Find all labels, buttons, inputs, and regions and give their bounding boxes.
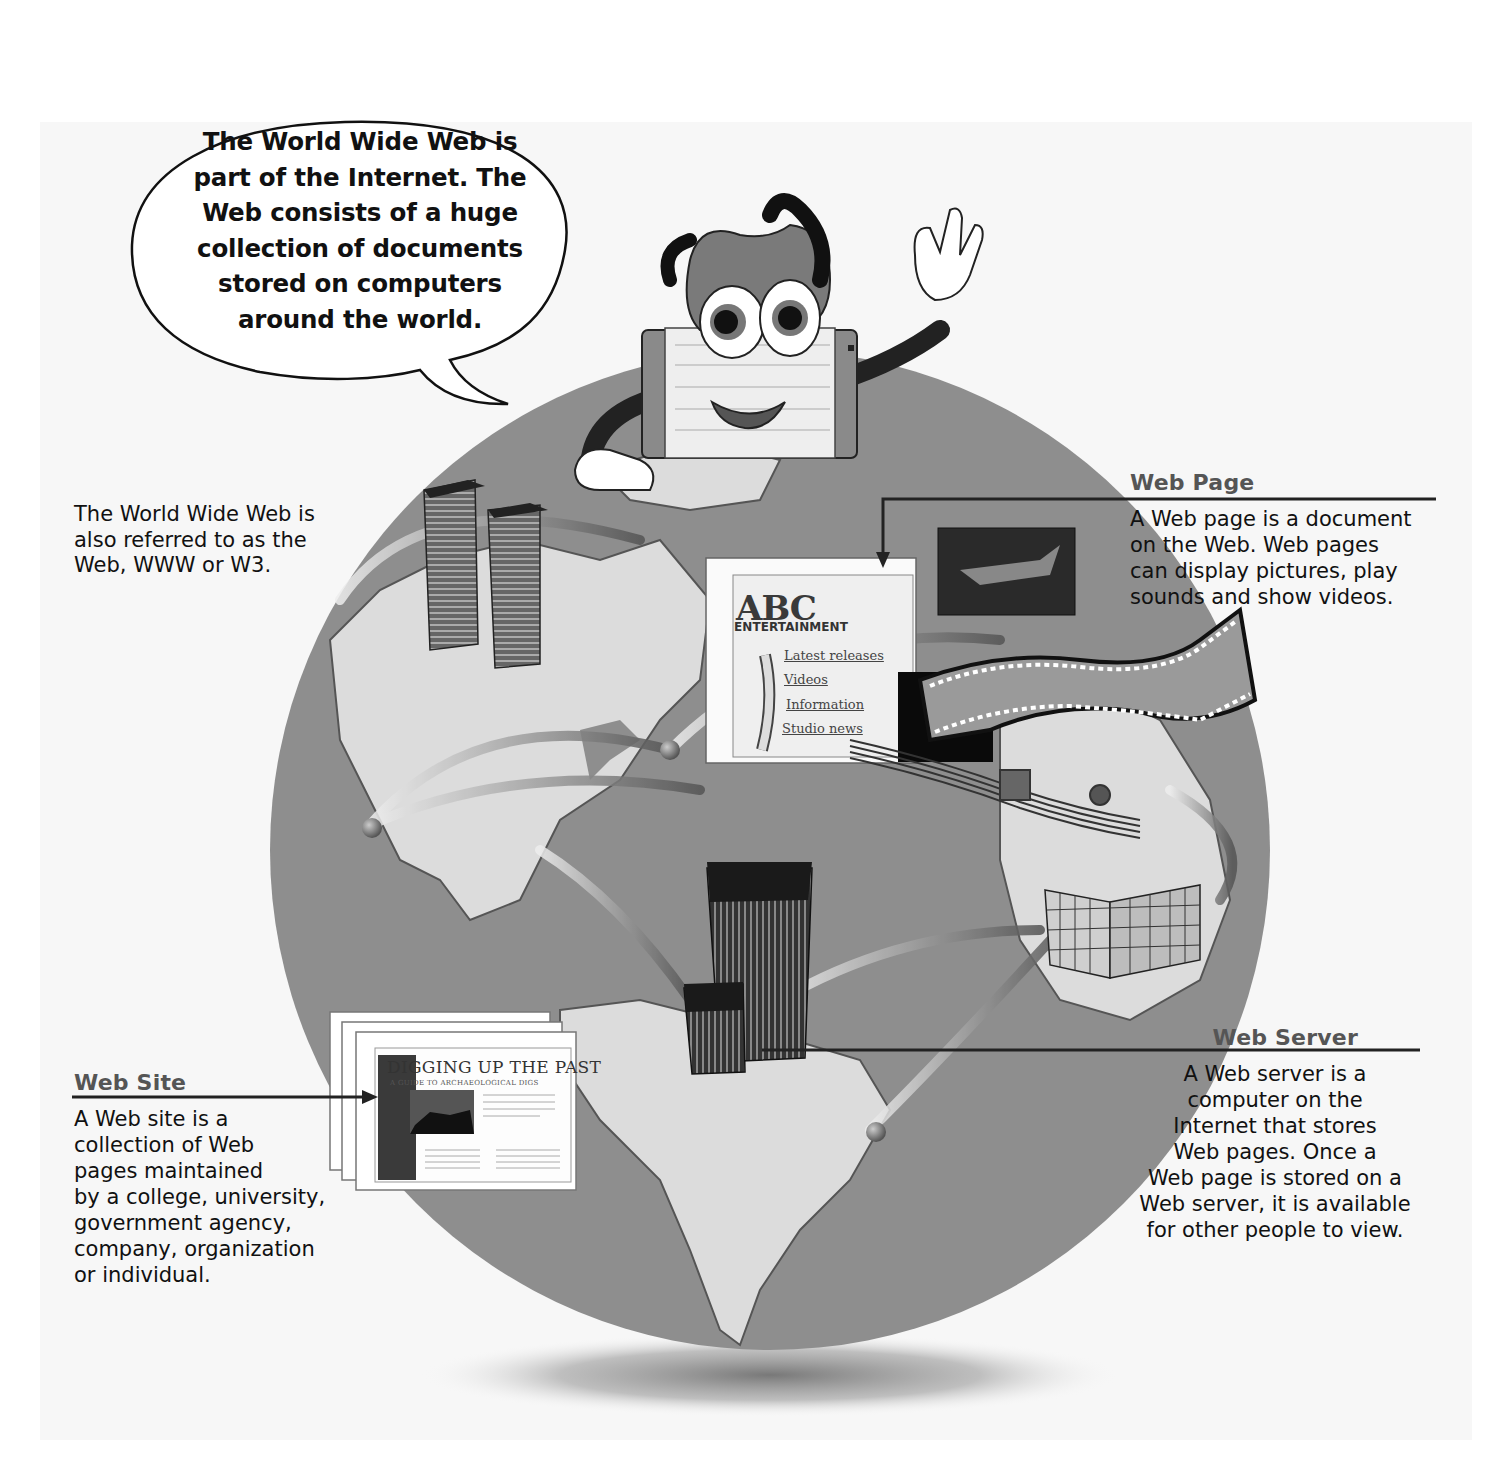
web-site-heading: Web Site: [74, 1070, 325, 1096]
web-page-heading: Web Page: [1130, 470, 1412, 496]
sample-site-subtitle: A GUIDE TO ARCHAEOLOGICAL DIGS: [390, 1079, 539, 1087]
aka-note: The World Wide Web is also referred to a…: [74, 502, 315, 579]
web-site-callout: Web Site A Web site is a collection of W…: [74, 1070, 325, 1288]
sample-link-studio-news: Studio news: [782, 721, 863, 736]
web-server-heading: Web Server: [1120, 1025, 1430, 1051]
web-server-callout: Web Server A Web server is a computer on…: [1120, 1025, 1430, 1243]
sample-link-latest-releases: Latest releases: [784, 648, 884, 663]
sample-link-information: Information: [786, 697, 864, 712]
network-node: [660, 740, 680, 760]
network-node: [362, 818, 382, 838]
web-page-callout: Web Page A Web page is a document on the…: [1130, 470, 1412, 610]
office-building-server: [1045, 885, 1200, 978]
network-node: [866, 1122, 886, 1142]
speech-bubble-text: The World Wide Web is part of the Intern…: [170, 124, 550, 337]
sample-link-videos: Videos: [784, 672, 828, 687]
abc-logo-subtitle: ENTERTAINMENT: [734, 620, 848, 634]
sample-site-title: DIGGING UP THE PAST: [387, 1057, 601, 1077]
